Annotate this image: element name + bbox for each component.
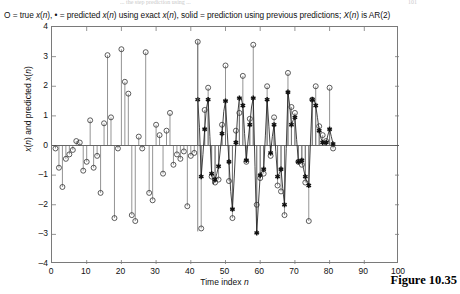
figure-root: ... the step prediction using ... 101 O … [0, 0, 460, 294]
x-tick-label: 80 [314, 266, 344, 276]
x-axis-label: Time index n [51, 277, 398, 287]
predicted-point-marker [289, 122, 294, 127]
predicted-markers [195, 90, 335, 236]
x-tick-label: 90 [348, 266, 378, 276]
predicted-point-marker [279, 167, 284, 172]
predicted-point-marker [227, 159, 232, 164]
predicted-point-marker [261, 167, 266, 172]
predicted-point-marker [234, 140, 239, 145]
predicted-point-marker [206, 97, 211, 102]
predicted-point-marker [293, 115, 298, 120]
predicted-point-marker [327, 127, 332, 132]
x-tick-label: 10 [71, 266, 101, 276]
x-tick-label: 40 [175, 266, 205, 276]
predicted-point-marker [251, 96, 256, 101]
plot-svg [52, 27, 399, 264]
predicted-point-marker [282, 202, 287, 207]
predicted-point-marker [223, 98, 228, 103]
predicted-point-marker [313, 103, 318, 108]
x-tick-label: 0 [36, 266, 66, 276]
predicted-point-marker [241, 103, 246, 108]
predicted-point-marker [209, 171, 214, 176]
x-tick-label: 60 [244, 266, 274, 276]
predicted-point-marker [254, 230, 258, 235]
page-number: 101 [408, 0, 417, 5]
predicted-point-marker [265, 97, 270, 102]
predicted-stems [198, 92, 333, 233]
predicted-point-marker [268, 150, 273, 155]
chart-title: O = true x(n), • = predicted x(n) using … [4, 10, 390, 20]
predicted-point-marker [248, 122, 253, 127]
prediction-line [198, 92, 333, 233]
figure-caption: Figure 10.35 [391, 273, 457, 288]
predicted-point-marker [199, 174, 204, 179]
page-running-header: ... the step prediction using ... [120, 0, 350, 6]
plot-area [51, 26, 398, 263]
predicted-point-marker [286, 90, 291, 95]
x-tick-label: 20 [105, 266, 135, 276]
predicted-point-marker [230, 207, 235, 212]
predicted-point-marker [317, 128, 322, 133]
predicted-point-marker [202, 127, 207, 132]
predicted-point-marker [303, 174, 308, 179]
y-tick-label: –2 [22, 199, 48, 209]
x-tick-label: 30 [140, 266, 170, 276]
true-markers [53, 39, 336, 231]
predicted-point-marker [275, 174, 280, 179]
predicted-point-marker [220, 131, 225, 136]
x-tick-label: 70 [279, 266, 309, 276]
predicted-point-marker [272, 122, 277, 127]
y-tick-label: –3 [22, 228, 48, 238]
predicted-point-marker [216, 164, 221, 169]
x-tick-label: 50 [210, 266, 240, 276]
y-axis-label: x(n) and predicted x(n) [23, 29, 33, 189]
